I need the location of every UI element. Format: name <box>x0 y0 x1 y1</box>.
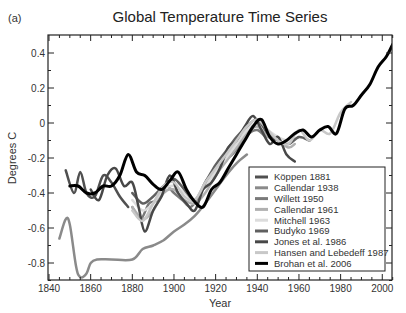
y-tick-label: -0.2 <box>28 153 46 164</box>
x-tick-label: 1840 <box>38 283 61 294</box>
legend-entry: Hansen and Lebedeff 1987 <box>274 247 388 258</box>
x-tick-label: 2000 <box>371 283 394 294</box>
y-tick-label: -0.4 <box>28 188 46 199</box>
legend-entry: Brohan et al. 2006 <box>274 258 352 269</box>
temperature-chart: (a) Global Temperature Time Series 18401… <box>0 0 406 313</box>
x-tick-label: 1860 <box>80 283 103 294</box>
y-tick-label: 0.4 <box>31 48 45 59</box>
x-tick-label: 1900 <box>163 283 186 294</box>
panel-label: (a) <box>8 12 21 24</box>
x-tick-label: 1940 <box>246 283 269 294</box>
x-tick-label: 1880 <box>121 283 144 294</box>
x-axis-label: Year <box>209 297 232 309</box>
legend: Köppen 1881Callendar 1938Willett 1950Cal… <box>249 167 388 271</box>
x-tick-label: 1960 <box>288 283 311 294</box>
legend-entry: Callendar 1961 <box>274 204 338 215</box>
y-axis-label: Degrees C <box>6 132 18 185</box>
y-tick-label: -0.8 <box>28 258 46 269</box>
legend-entry: Callendar 1938 <box>274 182 338 193</box>
chart-title: Global Temperature Time Series <box>113 8 328 25</box>
legend-entry: Mitchell 1963 <box>274 215 330 226</box>
legend-entry: Willett 1950 <box>274 193 324 204</box>
x-tick-label: 1980 <box>329 283 352 294</box>
y-tick-label: -0.6 <box>28 223 46 234</box>
y-tick-label: 0 <box>39 118 45 129</box>
legend-entry: Budyko 1969 <box>274 225 329 236</box>
y-tick-label: 0.2 <box>31 83 45 94</box>
legend-entry: Jones et al. 1986 <box>274 236 346 247</box>
x-tick-label: 1920 <box>205 283 228 294</box>
legend-entry: Köppen 1881 <box>274 171 331 182</box>
